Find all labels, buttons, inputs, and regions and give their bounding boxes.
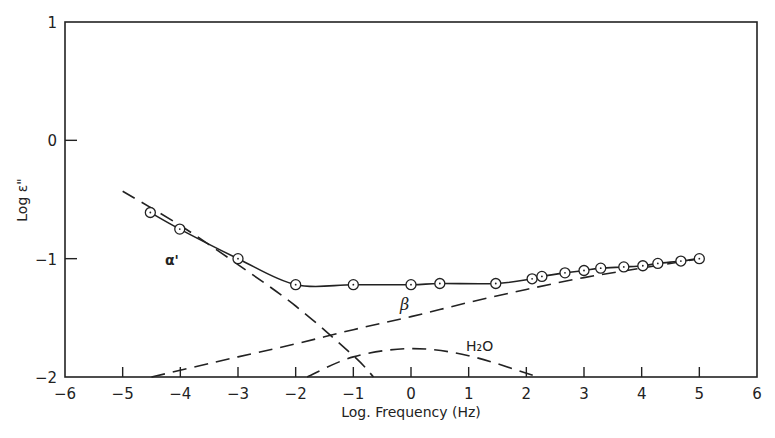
y-tick-label: −2 [35, 369, 57, 387]
x-tick-label: 1 [464, 385, 474, 403]
chart-canvas: −6−5−4−3−2−1012345610−1−2 Log. Frequency… [0, 0, 775, 438]
data-point-center [642, 265, 644, 267]
x-tick-label: 2 [522, 385, 532, 403]
data-point-center [295, 284, 297, 286]
data-point-center [179, 228, 181, 230]
y-tick-label: 1 [47, 14, 57, 32]
plot-frame [65, 22, 757, 377]
x-tick-label: −4 [169, 385, 191, 403]
data-point-center [410, 284, 412, 286]
y-axis-title: Log ε" [14, 178, 30, 221]
h2o-curve [307, 349, 538, 377]
annotation-beta: β [399, 295, 409, 314]
data-point-center [495, 283, 497, 285]
x-tick-label: 5 [695, 385, 705, 403]
data-point-center [657, 263, 659, 265]
data-point-center [698, 258, 700, 260]
measured-curve [150, 213, 699, 287]
x-tick-label: −6 [54, 385, 76, 403]
data-point-center [439, 283, 441, 285]
beta-curve [152, 259, 700, 377]
data-point-center [541, 276, 543, 278]
x-tick-label: −3 [227, 385, 249, 403]
axis-ticks [65, 140, 699, 377]
y-tick-label: −1 [35, 251, 57, 269]
data-point-center [237, 258, 239, 260]
annotation-alpha-prime: α' [165, 252, 179, 268]
x-tick-label: 0 [406, 385, 416, 403]
x-tick-label: −2 [285, 385, 307, 403]
x-tick-label: −1 [342, 385, 364, 403]
annotation-h2o: H₂O [466, 338, 493, 354]
axis-tick-labels: −6−5−4−3−2−1012345610−1−2 [35, 14, 762, 403]
x-tick-label: 6 [752, 385, 762, 403]
x-tick-label: 4 [637, 385, 647, 403]
data-point-center [623, 266, 625, 268]
data-markers [145, 208, 704, 290]
y-tick-label: 0 [47, 132, 57, 150]
data-point-center [564, 272, 566, 274]
data-point-center [583, 270, 585, 272]
data-point-center [352, 284, 354, 286]
data-point-center [531, 278, 533, 280]
data-point-center [680, 260, 682, 262]
data-point-center [600, 267, 602, 269]
x-tick-label: 3 [579, 385, 589, 403]
data-point-center [149, 212, 151, 214]
x-tick-label: −5 [112, 385, 134, 403]
x-axis-title: Log. Frequency (Hz) [341, 404, 480, 420]
